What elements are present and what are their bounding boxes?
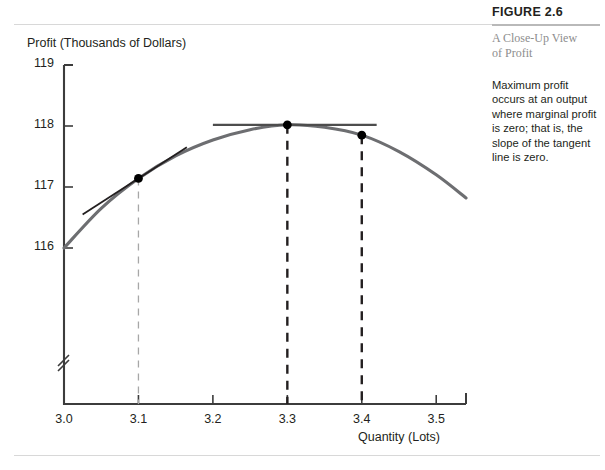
figure-caption-body: Maximum profit occurs at an output where… <box>492 78 604 164</box>
data-point-q-3-3 <box>283 120 292 129</box>
figure-header-rule <box>492 24 600 26</box>
plot-canvas <box>0 0 492 455</box>
caption-title-line-1: A Close-Up View <box>492 31 577 45</box>
figure-bottom-divider <box>14 455 600 456</box>
profit-chart: Profit (Thousands of Dollars) Quantity (… <box>0 0 492 455</box>
figure-number-label: FIGURE 2.6 <box>492 5 600 19</box>
tangent-line-at-q-3-1 <box>83 147 187 214</box>
data-point-q-3-1 <box>134 174 143 183</box>
caption-title-line-2: of Profit <box>492 46 532 60</box>
figure-caption-title: A Close-Up View of Profit <box>492 31 602 60</box>
profit-curve <box>64 125 466 248</box>
data-point-q-3-4 <box>357 131 366 140</box>
axis-lines <box>64 65 466 404</box>
figure-page: FIGURE 2.6 A Close-Up View of Profit Max… <box>0 0 605 470</box>
